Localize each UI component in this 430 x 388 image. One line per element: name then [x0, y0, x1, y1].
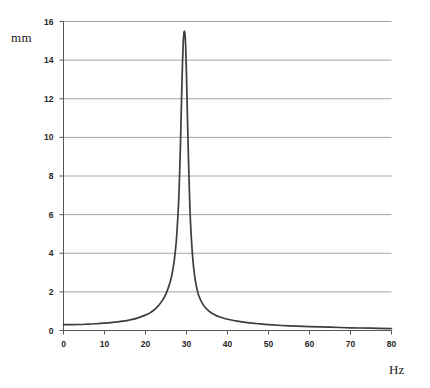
- y-tick-label: 0: [32, 326, 54, 336]
- gridlines-group: [64, 22, 392, 331]
- x-tick-label: 20: [134, 339, 158, 349]
- x-tick-label: 30: [175, 339, 199, 349]
- x-tick-label: 80: [380, 339, 404, 349]
- x-axis-unit-label: Hz: [389, 362, 404, 378]
- x-tick-label: 50: [257, 339, 281, 349]
- y-tick-label: 14: [32, 55, 54, 65]
- resonance-plot: [0, 0, 430, 388]
- y-tick-label: 16: [32, 17, 54, 27]
- y-tick-label: 4: [32, 248, 54, 258]
- x-tick-label: 60: [298, 339, 322, 349]
- y-tick-label: 6: [32, 210, 54, 220]
- y-axis-unit-label: mm: [11, 30, 32, 46]
- y-tick-label: 2: [32, 287, 54, 297]
- axis-ticks-group: [60, 22, 392, 335]
- y-tick-label: 10: [32, 132, 54, 142]
- chart-figure: mm Hz 0246810121416 01020304050607080: [0, 0, 430, 388]
- y-tick-label: 8: [32, 171, 54, 181]
- x-tick-label: 0: [52, 339, 76, 349]
- y-tick-label: 12: [32, 94, 54, 104]
- x-tick-label: 10: [93, 339, 117, 349]
- x-tick-label: 70: [339, 339, 363, 349]
- data-curve-group: [64, 31, 392, 328]
- x-tick-label: 40: [216, 339, 240, 349]
